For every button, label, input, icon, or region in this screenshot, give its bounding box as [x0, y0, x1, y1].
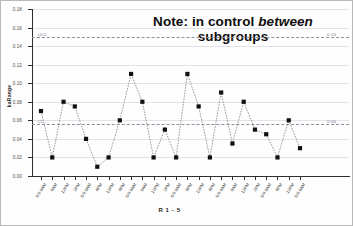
x-axis-tick	[131, 176, 132, 180]
x-axis-tick-label: 6/9 8AM	[215, 182, 228, 199]
y-axis-tick-label: 0.08	[13, 99, 22, 104]
data-point-marker	[287, 118, 291, 122]
data-point-marker	[174, 155, 178, 159]
x-axis-tick	[221, 176, 222, 180]
data-point-marker	[185, 72, 189, 76]
data-point-marker	[61, 100, 65, 104]
data-point-marker	[140, 100, 144, 104]
x-axis-tick	[142, 176, 143, 180]
x-axis-tick	[154, 176, 155, 180]
y-axis-tick-label: 0.12	[13, 62, 22, 67]
x-axis-tick	[210, 176, 211, 180]
x-axis-tick-label: 8AM	[140, 182, 149, 192]
x-axis-tick-label: 12PM	[105, 182, 115, 194]
x-axis-tick	[97, 176, 98, 180]
x-axis-tick-label: 4PM	[275, 182, 284, 192]
data-point-marker	[84, 137, 88, 141]
x-axis-tick-label: 8AM	[230, 182, 239, 192]
data-point-marker	[230, 141, 234, 145]
y-axis-tick-label: 0.16	[13, 25, 22, 30]
x-axis-tick	[277, 176, 278, 180]
x-axis-tick	[52, 176, 53, 180]
x-axis-tick-label: 12PM	[285, 182, 295, 194]
series-line	[41, 74, 300, 167]
x-axis-tick-label: 4PM	[185, 182, 194, 192]
x-axis-tick	[165, 176, 166, 180]
x-axis-tick	[232, 176, 233, 180]
x-axis-tick-label: 4PM	[95, 182, 104, 192]
data-point-marker	[219, 90, 223, 94]
data-point-marker	[152, 155, 156, 159]
data-point-marker	[264, 132, 268, 136]
x-axis-tick-label: 12PM	[150, 182, 160, 194]
data-point-marker	[197, 104, 201, 108]
chart-frame: Note: in control between subgroups kaRan…	[0, 0, 353, 226]
y-axis-title: kaRange	[6, 72, 12, 120]
x-axis-tick-label: 2PM	[252, 182, 261, 192]
x-axis-tick-label: 12PM	[240, 182, 250, 194]
data-point-marker	[118, 118, 122, 122]
data-point-marker	[208, 155, 212, 159]
x-axis-tick-label: 6/9 8AM	[34, 182, 47, 199]
x-axis-tick	[75, 176, 76, 180]
x-axis-tick	[300, 176, 301, 180]
x-axis-tick	[187, 176, 188, 180]
x-axis-tick	[266, 176, 267, 180]
x-axis-tick-label: 4PM	[207, 182, 216, 192]
y-axis-tick-label: 0.02	[13, 155, 22, 160]
series-line-and-markers	[32, 9, 349, 177]
x-axis-tick	[289, 176, 290, 180]
data-point-marker	[275, 155, 279, 159]
x-axis-tick-label: 12PM	[195, 182, 205, 194]
x-axis-tick	[41, 176, 42, 180]
x-axis-tick-label: 2PM	[162, 182, 171, 192]
x-axis-tick-label: 6/9 8AM	[260, 182, 273, 199]
y-axis-tick-label: 0.10	[13, 81, 22, 86]
plot-area: 0.000.020.040.060.080.100.120.140.160.18…	[32, 9, 349, 176]
x-axis-tick	[120, 176, 121, 180]
x-axis-title: R 1 - 5	[1, 207, 352, 213]
x-axis-tick-label: 2PM	[72, 182, 81, 192]
data-point-marker	[50, 155, 54, 159]
y-axis-tick-label: 0.06	[13, 118, 22, 123]
data-point-marker	[242, 100, 246, 104]
data-point-marker	[253, 128, 257, 132]
data-point-marker	[298, 146, 302, 150]
y-axis-tick-label: 0.04	[13, 136, 22, 141]
data-point-marker	[163, 128, 167, 132]
x-axis-tick	[109, 176, 110, 180]
x-axis-tick	[64, 176, 65, 180]
x-axis-tick	[176, 176, 177, 180]
data-point-marker	[106, 155, 110, 159]
x-axis-tick	[199, 176, 200, 180]
data-point-marker	[73, 104, 77, 108]
x-axis-tick-label: 12PM	[59, 182, 69, 194]
x-axis-tick	[86, 176, 87, 180]
x-axis-tick	[244, 176, 245, 180]
y-axis-tick-label: 0.18	[13, 7, 22, 12]
x-axis-tick-label: 4PM	[117, 182, 126, 192]
x-axis-tick-label: 8AM	[49, 182, 58, 192]
y-axis-tick-label: 0.00	[13, 174, 22, 179]
x-axis-tick	[255, 176, 256, 180]
x-axis-title-text: R 1 - 5	[158, 207, 180, 213]
data-point-marker	[95, 165, 99, 169]
data-point-marker	[39, 109, 43, 113]
data-point-marker	[129, 72, 133, 76]
x-axis-tick-label: 6/9 8AM	[169, 182, 182, 199]
y-axis-tick-label: 0.14	[13, 44, 22, 49]
